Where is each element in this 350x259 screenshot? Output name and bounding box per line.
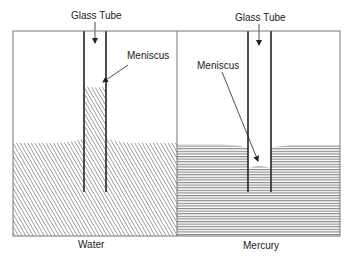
mercury-in-tube (249, 166, 270, 192)
water-liquid-right (106, 138, 177, 236)
mercury-glass-tube-label: Glass Tube (235, 13, 286, 23)
capillary-diagram (0, 0, 350, 259)
water-meniscus-label: Meniscus (127, 51, 169, 61)
mercury-liquid-right (271, 145, 340, 236)
mercury-liquid-left (177, 144, 248, 236)
mercury-panel-label: Mercury (243, 241, 279, 251)
water-panel-label: Water (78, 240, 104, 250)
water-below-tube (84, 192, 106, 236)
water-in-tube (85, 86, 105, 192)
water-liquid (13, 138, 84, 236)
mercury-below-tube (248, 192, 271, 236)
mercury-panel (177, 24, 340, 236)
mercury-meniscus-label: Meniscus (197, 61, 239, 71)
water-glass-tube-label: Glass Tube (71, 11, 122, 21)
